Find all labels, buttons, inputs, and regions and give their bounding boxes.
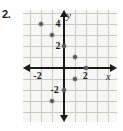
y-tick-label-neg2: -2 [51, 85, 59, 95]
x-axis-label: x [106, 72, 110, 82]
y-axis [63, 12, 65, 120]
data-point [84, 66, 88, 70]
x-axis-left-arrow-icon [23, 64, 30, 72]
y-tick-label-pos4: 4 [56, 19, 61, 29]
data-point [39, 22, 43, 26]
y-tick-label-pos2: 2 [56, 41, 61, 51]
x-axis [25, 67, 115, 69]
grid-line-vertical [108, 10, 109, 122]
grid-line-horizontal [23, 101, 117, 102]
grid-line-vertical [52, 10, 53, 122]
data-point [62, 44, 66, 48]
grid-line-vertical [75, 10, 76, 122]
grid-line-horizontal [23, 35, 117, 36]
data-point [73, 77, 77, 81]
grid-line-vertical [30, 10, 31, 122]
grid-line-horizontal [23, 24, 117, 25]
x-tick-label-neg2: -2 [33, 71, 41, 81]
grid-line-vertical [41, 10, 42, 122]
grid-layer [23, 10, 117, 122]
y-axis-down-arrow-icon [60, 115, 68, 122]
grid-line-horizontal [23, 112, 117, 113]
x-tick-label-pos2: 2 [83, 71, 88, 81]
y-axis-label: y [67, 11, 71, 21]
coordinate-graph: -2 2 -2 2 4 x y [23, 10, 117, 122]
grid-line-horizontal [23, 57, 117, 58]
x-axis-right-arrow-icon [110, 64, 117, 72]
problem-number: 2. [2, 8, 11, 20]
grid-line-vertical [97, 10, 98, 122]
grid-line-horizontal [23, 90, 117, 91]
data-point [73, 55, 77, 59]
grid-line-horizontal [23, 46, 117, 47]
data-point [62, 88, 66, 92]
